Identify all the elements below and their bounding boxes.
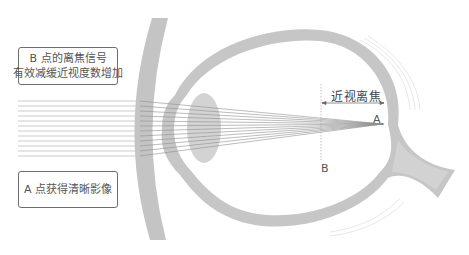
callout-b-line2: 有效减缓近视度数增加 xyxy=(13,66,123,81)
eye-myopia-diagram xyxy=(0,0,469,255)
focal-point-a xyxy=(382,123,384,125)
callout-b-line1: B 点的离焦信号 xyxy=(29,51,106,66)
point-a-label: A xyxy=(373,114,381,126)
point-b-label: B xyxy=(321,163,329,175)
callout-point-b: B 点的离焦信号 有效减缓近视度数增加 xyxy=(18,47,118,85)
myopic-defocus-label: 近视离焦 xyxy=(331,91,381,103)
crystalline-lens xyxy=(187,93,221,163)
callout-point-a: A 点获得清晰影像 xyxy=(18,171,118,208)
incoming-rays xyxy=(18,101,140,156)
callout-a-text: A 点获得清晰影像 xyxy=(24,182,112,197)
